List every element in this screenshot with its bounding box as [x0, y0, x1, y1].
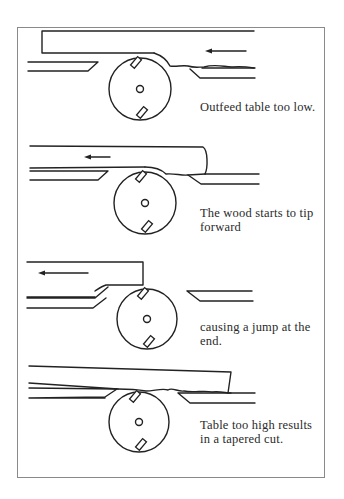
spindle-icon — [137, 86, 144, 93]
knife-bottom — [144, 336, 155, 348]
infeed-table — [178, 393, 255, 403]
feed-arrow-icon — [38, 271, 88, 276]
outfeed-table — [28, 62, 98, 71]
caption-table-too-high: Table too high results in a tapered cut. — [200, 418, 325, 446]
infeed-table — [188, 174, 259, 184]
wood-board — [27, 262, 143, 291]
spindle-icon — [144, 316, 151, 323]
infeed-table — [190, 68, 255, 78]
cut-surface — [154, 53, 254, 68]
spindle-icon — [142, 200, 149, 207]
knife-bottom — [136, 439, 147, 451]
knife-bottom — [137, 107, 148, 119]
feed-arrow-icon — [84, 155, 110, 160]
caption-wood-tips-forward: The wood starts to tip forward — [200, 206, 325, 234]
wood-board — [30, 146, 207, 174]
outfeed-table — [29, 388, 117, 398]
caption-jump-at-end: causing a jump at the end. — [200, 320, 325, 348]
caption-outfeed-too-low: Outfeed table too low. — [200, 100, 325, 114]
spindle-icon — [136, 419, 143, 426]
infeed-table — [187, 291, 253, 301]
wood-board — [42, 31, 254, 53]
knife-bottom — [142, 221, 153, 233]
feed-arrow-icon — [205, 49, 246, 54]
outfeed-table — [30, 171, 108, 180]
